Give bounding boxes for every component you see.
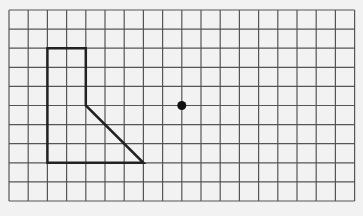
- center-point-dot: [177, 101, 186, 110]
- grid-diagram: [0, 0, 363, 216]
